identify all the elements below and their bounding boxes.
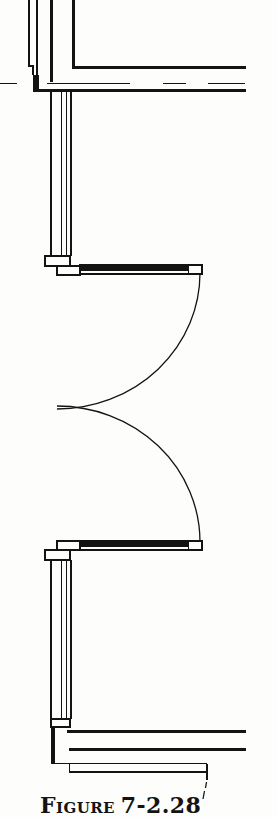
figure-caption: Figure7-2.28 xyxy=(40,793,201,817)
wall-end-block xyxy=(33,75,39,91)
figure-caption-word: Figure xyxy=(40,792,115,817)
lower-door-swing-arc xyxy=(57,406,200,542)
door-panel xyxy=(81,266,188,271)
wall-cap-block xyxy=(51,719,70,727)
door-jamb-block xyxy=(45,550,70,560)
door-jamb-block xyxy=(57,541,80,550)
leader-dash xyxy=(206,782,207,788)
caption-leader-dashes xyxy=(203,782,207,799)
wall-end-block xyxy=(51,727,56,763)
upper-door-assembly xyxy=(45,256,202,275)
wall-line xyxy=(29,0,33,75)
door-jamb-block xyxy=(57,266,80,275)
corner-wall-junction xyxy=(0,0,246,91)
left-wall-lower-segment xyxy=(51,560,71,727)
leader-dash xyxy=(203,791,205,799)
upper-door-swing-arc xyxy=(57,273,200,409)
door-swing-arcs xyxy=(57,273,200,542)
figure-caption-number: 7-2.28 xyxy=(121,792,201,817)
plan-drawing xyxy=(0,0,277,817)
lower-door-assembly xyxy=(45,541,202,560)
door-panel xyxy=(81,542,188,547)
lower-wall-junction xyxy=(51,727,247,780)
door-jamb-block xyxy=(45,256,70,266)
figure-page: Figure7-2.28 xyxy=(0,0,277,817)
left-wall-upper-segment xyxy=(51,92,71,256)
wall-corner xyxy=(74,0,247,68)
